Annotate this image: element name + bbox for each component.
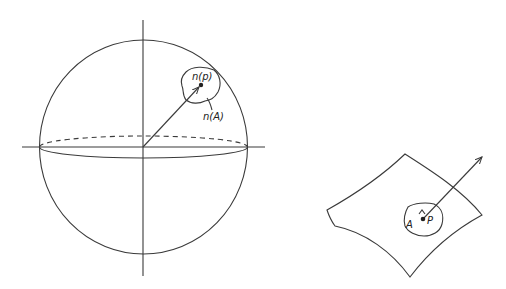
caret-mark bbox=[419, 210, 425, 214]
gauss-map-diagram: n(p) n(A) A P bbox=[0, 0, 506, 289]
point-P-dot bbox=[421, 217, 426, 222]
point-n-p-dot bbox=[199, 83, 203, 87]
surface-normal-arrow bbox=[423, 157, 482, 219]
unit-sphere-figure: n(p) n(A) bbox=[22, 20, 265, 276]
label-n-p: n(p) bbox=[192, 71, 213, 82]
label-P: P bbox=[427, 215, 434, 226]
surface-patch-figure: A P bbox=[327, 154, 482, 277]
label-n-A: n(A) bbox=[203, 111, 224, 122]
normal-vector-arrow bbox=[143, 87, 199, 147]
label-A: A bbox=[405, 219, 413, 230]
